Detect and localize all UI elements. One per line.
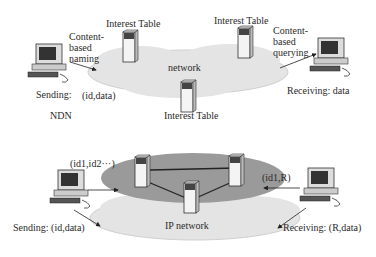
- ip-receiver-computer: [300, 168, 340, 206]
- ndn-router-left: [123, 30, 138, 62]
- interest-table-label-right: Interest Table: [214, 15, 268, 26]
- ip-sending-label: Sending: (id,data): [13, 222, 85, 233]
- ndn-section-label: NDN: [50, 110, 72, 121]
- interest-table-label-left: Interest Table: [106, 18, 160, 29]
- ndn-cloud-label: network: [168, 62, 201, 73]
- diagram-canvas: Interest Table Interest Table Interest T…: [0, 0, 376, 257]
- diagram-graphics: [0, 0, 376, 257]
- content-based-naming-label: Content-based naming: [69, 31, 111, 64]
- ip-router-left: [135, 155, 150, 187]
- ip-id-list-label: (id1,id2···): [70, 158, 115, 169]
- ndn-sender-computer: [28, 44, 68, 82]
- ndn-router-bottom: [181, 80, 196, 112]
- ip-sender-computer: [50, 170, 90, 208]
- interest-table-label-bottom: Interest Table: [164, 110, 218, 121]
- ndn-sending-label: Sending:: [36, 89, 72, 100]
- ndn-receiving-label: Receiving: data: [287, 85, 349, 96]
- ndn-sending-payload: (id,data): [82, 90, 116, 101]
- ip-receiving-label: Receiving: (R,data): [283, 222, 361, 233]
- ndn-router-right: [238, 26, 253, 58]
- ip-cloud-label: IP network: [165, 220, 209, 231]
- ip-router-bottom: [184, 181, 199, 213]
- content-based-querying-label: Content-based querying: [273, 25, 317, 58]
- ip-request-label: (id1,R): [262, 172, 291, 183]
- ip-router-right: [229, 154, 244, 186]
